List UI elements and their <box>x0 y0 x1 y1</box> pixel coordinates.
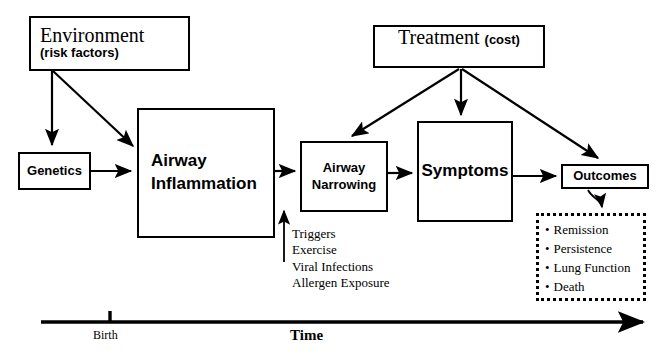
list-item: Remission <box>545 221 643 240</box>
node-treatment[interactable]: Treatment (cost) <box>373 25 545 68</box>
node-environment[interactable]: Environment (risk factors) <box>29 16 190 71</box>
node-environment-subtitle: (risk factors) <box>40 45 119 61</box>
outcome-list-box: Remission Persistence Lung Function Deat… <box>536 213 646 301</box>
diagram-canvas: Environment (risk factors) Treatment (co… <box>0 0 663 360</box>
node-airway-inflammation-line1: Airway <box>151 150 207 173</box>
list-item: Persistence <box>545 240 643 259</box>
timeline-axis <box>41 311 643 323</box>
node-genetics[interactable]: Genetics <box>18 152 91 190</box>
list-item: Exercise <box>292 242 442 258</box>
list-item: Allergen Exposure <box>292 275 442 291</box>
node-airway-narrowing-line1: Airway <box>323 160 366 177</box>
list-item: Triggers <box>292 226 442 242</box>
node-symptoms-label: Symptoms <box>422 162 509 180</box>
node-airway-narrowing[interactable]: Airway Narrowing <box>300 141 388 212</box>
node-genetics-label: Genetics <box>27 164 82 178</box>
timeline-birth-label: Birth <box>93 328 118 343</box>
list-item: Viral Infections <box>292 259 442 275</box>
triggers-list: Triggers Exercise Viral Infections Aller… <box>292 226 442 291</box>
node-environment-title: Environment <box>40 25 144 45</box>
list-item: Lung Function <box>545 259 643 278</box>
node-outcomes[interactable]: Outcomes <box>561 164 649 189</box>
node-treatment-title: Treatment <box>398 27 479 49</box>
edge-outcomes-to-outcome-list <box>588 190 602 207</box>
timeline-time-label: Time <box>290 327 323 344</box>
node-airway-narrowing-line2: Narrowing <box>312 177 376 194</box>
node-outcomes-label: Outcomes <box>573 169 637 183</box>
list-item: Death <box>545 278 643 297</box>
node-treatment-subtitle: (cost) <box>485 33 520 47</box>
edge-environment-to-airway-inflammation <box>53 71 133 146</box>
node-symptoms[interactable]: Symptoms <box>417 121 513 222</box>
node-airway-inflammation[interactable]: Airway Inflammation <box>137 108 275 238</box>
node-airway-inflammation-line2: Inflammation <box>151 173 257 196</box>
